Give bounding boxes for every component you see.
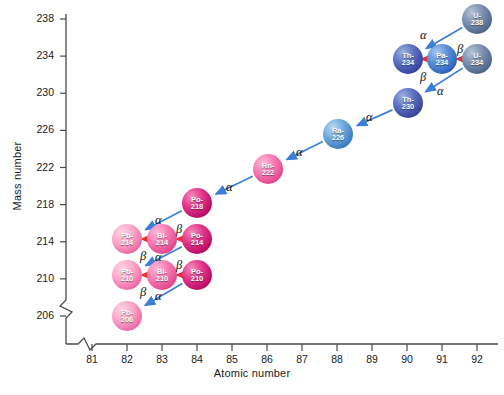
nuclide-node-th-234: Th-234 xyxy=(393,44,423,74)
y-tick-label-226: 226 xyxy=(24,123,54,135)
decay-label-beta-bi-214: β xyxy=(176,222,182,237)
x-tick-label-91: 91 xyxy=(427,353,457,365)
nuclide-mass: 210 xyxy=(191,275,204,283)
decay-label-alpha-po-218: α xyxy=(155,213,162,228)
x-tick-label-85: 85 xyxy=(217,353,247,365)
nuclide-node-u-234: U-234 xyxy=(462,44,492,74)
decay-label-alpha-po-210: α xyxy=(155,289,162,304)
y-axis-ticks xyxy=(60,19,66,316)
x-axis-title: Atomic number xyxy=(0,367,504,379)
y-tick-label-234: 234 xyxy=(24,49,54,61)
decay-label-alpha-ra-226: α xyxy=(296,145,303,160)
y-tick-label-230: 230 xyxy=(24,86,54,98)
y-tick-label-218: 218 xyxy=(24,198,54,210)
y-tick-label-206: 206 xyxy=(24,309,54,321)
y-tick-label-210: 210 xyxy=(24,272,54,284)
y-axis-title: Mass number xyxy=(11,121,23,231)
decay-label-alpha-th-230: α xyxy=(366,110,373,125)
nuclide-mass: 210 xyxy=(156,275,169,283)
y-tick-label-214: 214 xyxy=(24,235,54,247)
nuclide-node-u-238: U-238 xyxy=(462,4,492,34)
nuclide-node-pb-210: Pb-210 xyxy=(112,260,142,290)
nuclide-node-po-218: Po-218 xyxy=(182,188,212,218)
nuclide-mass: 234 xyxy=(402,59,415,67)
x-tick-label-86: 86 xyxy=(252,353,282,365)
nuclide-node-pa-234: Pa-234 xyxy=(427,44,457,74)
nuclide-mass: 214 xyxy=(191,239,204,247)
decay-label-alpha-po-214: α xyxy=(155,250,162,265)
nuclide-node-po-214: Po-214 xyxy=(182,224,212,254)
nuclide-mass: 214 xyxy=(156,239,169,247)
nuclide-node-pb-214: Pb-214 xyxy=(112,224,142,254)
decay-label-alpha-u-238: α xyxy=(420,28,427,43)
decay-arrow-alpha-rn-222 xyxy=(216,176,253,194)
nuclide-node-ra-226: Ra-226 xyxy=(323,119,353,149)
decay-label-beta-th-234: β xyxy=(420,70,426,85)
nuclide-mass: 234 xyxy=(471,59,484,67)
nuclide-node-po-210: Po-210 xyxy=(182,260,212,290)
x-tick-label-89: 89 xyxy=(357,353,387,365)
x-tick-label-88: 88 xyxy=(322,353,352,365)
decay-label-beta-bi-210: β xyxy=(176,258,182,273)
x-axis-ticks xyxy=(92,344,477,351)
decay-arrow-alpha-ra-226 xyxy=(287,142,323,160)
x-tick-label-82: 82 xyxy=(112,353,142,365)
nuclide-node-th-230: Th-230 xyxy=(393,88,423,118)
nuclide-node-pb-206: Pb-206 xyxy=(112,301,142,331)
nuclide-mass: 206 xyxy=(121,316,134,324)
nuclide-mass: 222 xyxy=(262,169,275,177)
y-tick-label-238: 238 xyxy=(24,12,54,24)
x-tick-label-87: 87 xyxy=(287,353,317,365)
decay-label-beta-pb-214: β xyxy=(140,249,146,264)
x-tick-label-83: 83 xyxy=(147,353,177,365)
nuclide-mass: 234 xyxy=(436,59,449,67)
nuclide-mass: 214 xyxy=(121,239,134,247)
decay-label-beta-pb-210: β xyxy=(140,285,146,300)
decay-label-beta-pa-234: β xyxy=(457,42,463,57)
nuclide-mass: 226 xyxy=(332,134,345,142)
x-tick-label-90: 90 xyxy=(392,353,422,365)
x-tick-label-81: 81 xyxy=(77,353,107,365)
nuclide-mass: 218 xyxy=(191,203,204,211)
decay-label-alpha-u-234: α xyxy=(437,84,444,99)
x-tick-label-84: 84 xyxy=(182,353,212,365)
decay-arrow-alpha-th-230 xyxy=(357,110,392,126)
x-tick-label-92: 92 xyxy=(462,353,492,365)
nuclide-mass: 230 xyxy=(402,103,415,111)
nuclide-mass: 210 xyxy=(121,275,134,283)
nuclide-node-rn-222: Rn-222 xyxy=(253,154,283,184)
nuclide-mass: 238 xyxy=(471,19,484,27)
decay-label-alpha-rn-222: α xyxy=(226,180,233,195)
y-tick-label-222: 222 xyxy=(24,161,54,173)
nuclide-node-bi-214: Bi-214 xyxy=(147,224,177,254)
nuclide-node-bi-210: Bi-210 xyxy=(147,260,177,290)
